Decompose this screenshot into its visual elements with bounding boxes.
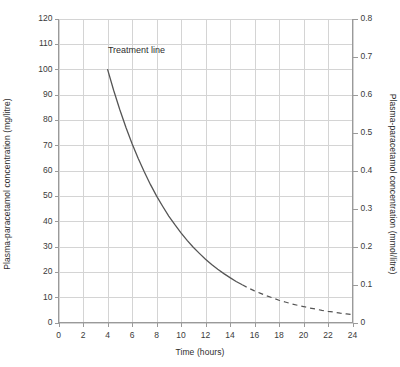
x-axis-tick-label: 4 bbox=[97, 330, 119, 340]
y-axis-tick-label-left: 60 bbox=[25, 165, 53, 175]
x-axis-tick-label: 20 bbox=[293, 330, 315, 340]
x-axis-tick-label: 8 bbox=[146, 330, 168, 340]
y-axis-tick-label-left: 50 bbox=[25, 190, 53, 200]
y-axis-tick-label-left: 110 bbox=[25, 38, 53, 48]
y-axis-tick-label-right: 0.5 bbox=[361, 127, 391, 137]
treatment-line-solid bbox=[108, 69, 243, 285]
y-axis-tick-label-left: 90 bbox=[25, 89, 53, 99]
treatment-line-annotation: Treatment line bbox=[108, 45, 165, 55]
y-axis-tick-label-left: 30 bbox=[25, 241, 53, 251]
x-axis-tick-label: 18 bbox=[268, 330, 290, 340]
x-axis-tick-label: 16 bbox=[244, 330, 266, 340]
plot-frame bbox=[59, 19, 353, 323]
y-axis-tick-label-left: 80 bbox=[25, 114, 53, 124]
x-axis-tick-label: 2 bbox=[72, 330, 94, 340]
x-axis-tick-label: 14 bbox=[219, 330, 241, 340]
y-axis-tick-label-left: 70 bbox=[25, 140, 53, 150]
y-axis-tick-label-left: 0 bbox=[25, 317, 53, 327]
y-axis-tick-label-left: 10 bbox=[25, 292, 53, 302]
treatment-line-dashed bbox=[242, 285, 352, 315]
y-axis-tick-label-left: 20 bbox=[25, 266, 53, 276]
x-axis-tick-label: 12 bbox=[195, 330, 217, 340]
y-axis-tick-label-left: 40 bbox=[25, 216, 53, 226]
plot-area bbox=[0, 0, 400, 367]
y-axis-tick-label-right: 0.1 bbox=[361, 279, 391, 289]
x-axis-tick-label: 6 bbox=[121, 330, 143, 340]
x-axis-tick-label: 0 bbox=[48, 330, 70, 340]
y-axis-tick-label-right: 0.8 bbox=[361, 13, 391, 23]
y-axis-tick-label-right: 0.6 bbox=[361, 89, 391, 99]
paracetamol-nomogram-chart: Plasma-paracetamol concentration (mg/lit… bbox=[0, 0, 400, 367]
x-axis-tick-label: 24 bbox=[342, 330, 364, 340]
gridlines bbox=[59, 19, 354, 324]
y-axis-tick-label-right: 0 bbox=[361, 317, 391, 327]
y-axis-tick-label-right: 0.3 bbox=[361, 203, 391, 213]
x-axis-tick-label: 10 bbox=[170, 330, 192, 340]
y-axis-tick-label-right: 0.4 bbox=[361, 165, 391, 175]
x-axis-tick-label: 22 bbox=[317, 330, 339, 340]
y-axis-tick-label-right: 0.7 bbox=[361, 51, 391, 61]
y-axis-tick-label-left: 120 bbox=[25, 13, 53, 23]
y-axis-tick-label-left: 100 bbox=[25, 64, 53, 74]
y-axis-tick-label-right: 0.2 bbox=[361, 241, 391, 251]
